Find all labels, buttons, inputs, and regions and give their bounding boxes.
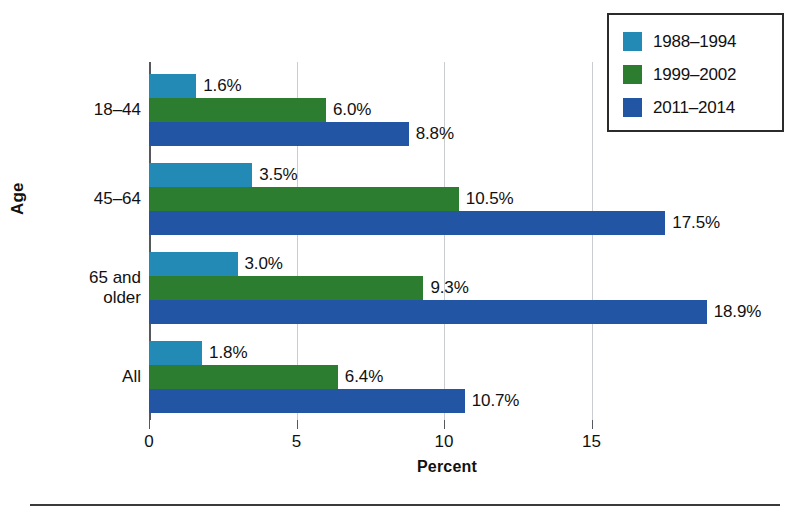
x-axis-tick-label: 10 [435,432,454,452]
x-axis-tick-label: 15 [582,432,601,452]
bar-group: 3.5%10.5%17.5% [149,163,745,235]
legend-swatch-icon [623,65,642,84]
legend: 1988–19941999–20022011–2014 [607,13,784,132]
bar[interactable] [149,187,459,211]
y-axis-category-label: 65 and older [11,268,141,308]
x-axis-tick-label: 5 [292,432,301,452]
legend-label: 1999–2002 [653,65,736,85]
bar-value-label: 6.4% [345,367,383,387]
bar[interactable] [149,365,338,389]
bar[interactable] [149,74,196,98]
chart-figure: 1.6%6.0%8.8%3.5%10.5%17.5%3.0%9.3%18.9%1… [0,0,805,522]
y-axis-category-label: All [11,367,141,387]
bar-row: 3.5% [149,163,745,187]
legend-item[interactable]: 2011–2014 [623,91,782,124]
bar-value-label: 10.5% [466,189,514,209]
bar[interactable] [149,300,707,324]
bar-value-label: 18.9% [714,302,762,322]
bar-row: 9.3% [149,276,745,300]
legend-swatch-icon [623,98,642,117]
x-axis-tick-mark [149,420,150,429]
legend-item[interactable]: 1999–2002 [623,58,782,91]
legend-label: 2011–2014 [653,98,735,118]
bar[interactable] [149,98,326,122]
x-axis-title: Percent [149,458,745,476]
bar-value-label: 6.0% [333,100,371,120]
bar[interactable] [149,211,665,235]
x-axis-tick-label: 0 [144,432,153,452]
x-axis-tick-mark [297,420,298,429]
legend-item[interactable]: 1988–1994 [623,25,782,58]
bar-group: 1.8%6.4%10.7% [149,341,745,413]
bar[interactable] [149,341,202,365]
bar[interactable] [149,122,409,146]
bar[interactable] [149,252,238,276]
legend-label: 1988–1994 [653,32,736,52]
bar-row: 6.4% [149,365,745,389]
bar[interactable] [149,389,465,413]
x-axis-tick-mark [444,420,445,429]
bar-row: 18.9% [149,300,745,324]
bar-row: 1.8% [149,341,745,365]
x-axis-tick-mark [592,420,593,429]
y-axis-category-label: 45–64 [11,189,141,209]
bar-row: 17.5% [149,211,745,235]
y-axis-category-labels: 18–4445–6465 and olderAll [8,62,141,420]
y-axis-category-label: 18–44 [11,100,141,120]
bar[interactable] [149,276,423,300]
bar-value-label: 17.5% [672,213,720,233]
bar-value-label: 8.8% [416,124,454,144]
bar-row: 10.5% [149,187,745,211]
x-axis-ticks: 051015 [149,420,745,460]
legend-swatch-icon [623,32,642,51]
bar-value-label: 1.6% [203,76,241,96]
bar-value-label: 3.5% [259,165,297,185]
bar-value-label: 9.3% [430,278,468,298]
bar-value-label: 1.8% [209,343,247,363]
y-axis-title: Age [8,182,28,215]
bottom-divider [30,504,780,506]
bar-value-label: 3.0% [245,254,283,274]
bar-row: 10.7% [149,389,745,413]
bar-value-label: 10.7% [472,391,520,411]
bar-row: 3.0% [149,252,745,276]
bar-group: 3.0%9.3%18.9% [149,252,745,324]
bar[interactable] [149,163,252,187]
